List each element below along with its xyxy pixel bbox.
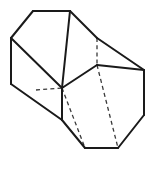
hexagonal-prism-drawing bbox=[0, 0, 159, 170]
face-fills bbox=[11, 11, 144, 148]
hexagonal-prism-figure bbox=[0, 0, 159, 170]
